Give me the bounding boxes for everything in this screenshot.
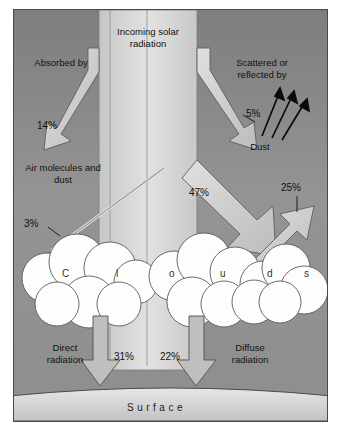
diffuse-radiation-label: Diffuse radiation bbox=[222, 342, 278, 365]
cloud-letter: l bbox=[116, 268, 118, 279]
value-diffuse: 22% bbox=[160, 351, 180, 362]
cloud-letter: o bbox=[169, 268, 175, 279]
cloud-letter: C bbox=[62, 268, 69, 279]
value-to-clouds: 47% bbox=[189, 187, 209, 198]
right-heading: Scattered or reflected by bbox=[222, 57, 302, 80]
left-heading: Absorbed by bbox=[30, 57, 92, 69]
cloud-letter: s bbox=[304, 268, 309, 279]
value-absorbed-air: 14% bbox=[37, 120, 57, 131]
value-reflected-clouds: 25% bbox=[281, 182, 301, 193]
dust-scatter-arrows bbox=[262, 88, 309, 140]
value-absorbed-clouds: 3% bbox=[24, 218, 38, 229]
figure-canvas: Incoming solar radiation Absorbed by Sca… bbox=[0, 0, 340, 428]
value-scattered-dust: 5% bbox=[246, 108, 260, 119]
surface-label: Surface bbox=[127, 402, 186, 413]
value-direct: 31% bbox=[114, 351, 134, 362]
diagram-panel: Incoming solar radiation Absorbed by Sca… bbox=[13, 9, 328, 422]
cloud-letter: d bbox=[267, 268, 273, 279]
diagram-title: Incoming solar radiation bbox=[107, 26, 189, 49]
dust-label: Dust bbox=[242, 141, 278, 153]
cloud-letter: u bbox=[220, 268, 226, 279]
air-molecules-label: Air molecules and dust bbox=[24, 162, 102, 185]
direct-radiation-label: Direct radiation bbox=[38, 342, 92, 365]
